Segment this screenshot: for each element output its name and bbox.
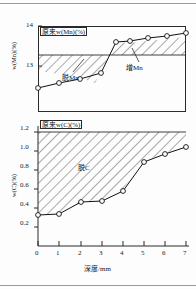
mn-chart-panel: w(Mn)(%) 14 13 xyxy=(0,8,196,120)
c-xtick-2: 2 xyxy=(78,249,82,257)
c-chart-svg xyxy=(0,122,196,285)
c-xtick-3: 3 xyxy=(99,249,103,257)
mn-chart-svg xyxy=(0,8,196,120)
c-decarburized-annotation: 脱C xyxy=(78,162,90,172)
c-xtick-4: 4 xyxy=(120,249,124,257)
c-xtick-1: 1 xyxy=(56,249,60,257)
c-xtick-0: 0 xyxy=(35,249,39,257)
bottom-divider-rule xyxy=(0,285,196,286)
mn-enriched-region xyxy=(95,37,186,83)
top-divider-rule xyxy=(0,3,196,4)
mn-enriched-annotation: 增Mn xyxy=(126,62,143,72)
c-xtick-6: 6 xyxy=(162,249,166,257)
c-chart-panel: w(C)(%) 1.2 1.0 0.8 0.6 0.4 0.2 xyxy=(0,122,196,285)
c-xtick-7: 7 xyxy=(183,249,187,257)
c-x-ticks xyxy=(38,241,186,246)
c-x-axis-label: 深度/mm xyxy=(84,263,111,273)
c-xtick-5: 5 xyxy=(141,249,145,257)
mn-original-level-label: 原来w(Mn)(%) xyxy=(40,27,87,36)
figure-root: w(Mn)(%) 14 13 xyxy=(0,0,196,289)
c-decarburized-region xyxy=(38,132,186,215)
c-original-level-label: 原来w(C)(%) xyxy=(40,120,82,129)
mn-depleted-annotation: 脱Mn xyxy=(62,72,79,82)
